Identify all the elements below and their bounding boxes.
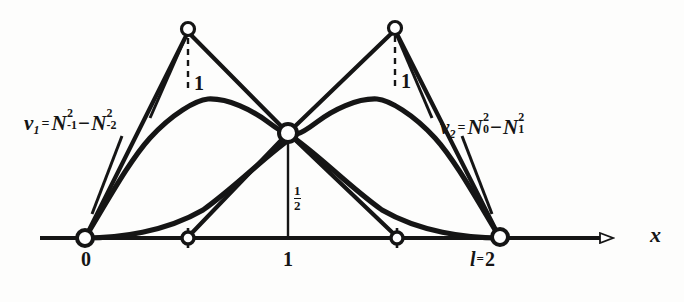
tick-label-l-symbol: l — [470, 248, 476, 270]
v1-symbol: v — [24, 111, 33, 135]
tick-label-l-equals-2: l=2 — [470, 249, 495, 269]
v2-basis1-indices: 20 — [483, 111, 489, 135]
fraction-numerator: 1 — [294, 184, 301, 198]
peak-right-height-label: 1 — [401, 71, 411, 91]
v1-subscript: 1 — [33, 123, 39, 137]
marker-half-knot-left[interactable] — [182, 232, 194, 244]
tick-label-l-equals: = — [476, 251, 485, 266]
v2-minus: − — [489, 115, 503, 139]
v2-equals: = — [456, 120, 468, 135]
marker-origin-knot[interactable] — [77, 230, 93, 246]
marker-half-knot-right[interactable] — [391, 232, 403, 244]
fraction-one-half: 1 2 — [294, 184, 301, 212]
v1-basis2-sub: -2 — [106, 119, 116, 131]
marker-peak-right[interactable] — [389, 22, 402, 35]
v1-basis1-symbol: N — [52, 111, 67, 135]
tick-label-one: 1 — [283, 249, 293, 269]
v1-basis2-indices: 2-2 — [106, 107, 116, 131]
v2-subscript: 2 — [449, 127, 455, 141]
v1-equals: = — [40, 116, 52, 131]
marker-mid-crossing[interactable] — [279, 124, 297, 142]
curve-v2-arch — [85, 99, 500, 238]
v1-minus: − — [77, 111, 91, 135]
v2-basis2-indices: 21 — [518, 111, 524, 135]
curve-v1-arch — [85, 99, 500, 238]
v2-symbol: v — [440, 115, 449, 139]
figure-canvas: v1=N2-1−N2-2 v2=N20−N21 1 1 1 2 0 1 l=2 … — [0, 0, 684, 302]
spline-plot-svg — [0, 0, 684, 302]
v1-basis1-indices: 2-1 — [67, 107, 77, 131]
marker-end-knot[interactable] — [492, 229, 508, 245]
midpoint-height-label: 1 2 — [294, 184, 301, 213]
x-axis-label: x — [650, 224, 661, 246]
marker-peak-left[interactable] — [182, 23, 195, 36]
peak-left-height-label: 1 — [194, 73, 204, 93]
leader-line-left-label — [150, 36, 186, 118]
v1-basis2-symbol: N — [91, 111, 106, 135]
v2-basis2-sub: 1 — [518, 123, 524, 135]
v2-basis1-sub: 0 — [483, 123, 489, 135]
tick-label-l-value: 2 — [485, 248, 495, 270]
fraction-denominator: 2 — [294, 198, 301, 213]
curve-label-v2: v2=N20−N21 — [440, 112, 524, 140]
tick-label-zero: 0 — [81, 249, 91, 269]
v1-basis1-sub: -1 — [67, 119, 77, 131]
v2-basis2-symbol: N — [503, 115, 518, 139]
v2-basis1-symbol: N — [468, 115, 483, 139]
curve-label-v1: v1=N2-1−N2-2 — [24, 108, 117, 136]
curve-v1-piecewise — [85, 32, 397, 238]
